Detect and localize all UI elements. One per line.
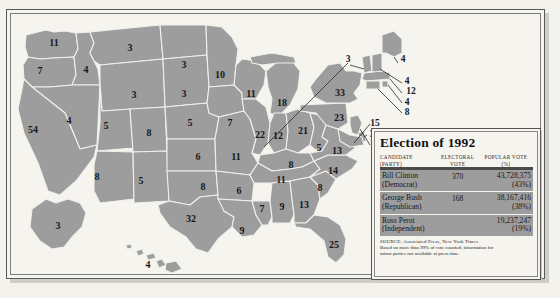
- cell-candidate: George Bush(Republican): [380, 192, 436, 213]
- column-header-popular-line1: POPULAR VOTE: [484, 154, 527, 160]
- electoral-vote-label-maine: 4: [401, 54, 406, 64]
- candidate-party: (Democrat): [382, 181, 436, 190]
- electoral-vote-label-rhode-island: 4: [405, 97, 410, 107]
- column-header-popular-line2: (%): [501, 161, 510, 167]
- electoral-vote-label-kansas: 6: [196, 152, 201, 162]
- column-header-electoral-line1: ELECTORAL: [441, 154, 474, 160]
- state-new-hampshire: [372, 53, 382, 73]
- electoral-vote-label-new-hampshire: 4: [405, 76, 410, 86]
- candidate-party: (Independent): [382, 225, 436, 234]
- column-header-electoral-vote: ELECTORAL VOTE: [436, 154, 478, 167]
- candidate-name: Bill Clinton: [382, 171, 418, 180]
- leader-line-rhode-island: [388, 85, 402, 103]
- source-line-3: minor parties not available at press tim…: [380, 251, 533, 257]
- state-wyoming: [100, 59, 165, 111]
- cell-electoral-vote: [436, 215, 478, 236]
- source-note: SOURCE: Associated Press, New York Times…: [380, 239, 533, 258]
- cell-candidate: Ross Perot(Independent): [380, 215, 436, 236]
- electoral-vote-label-arkansas: 6: [237, 186, 242, 196]
- table-row: Ross Perot(Independent)19,237,247(19%): [380, 215, 533, 236]
- electoral-vote-label-louisiana: 9: [240, 226, 245, 236]
- popular-vote-percent: (38%): [479, 203, 531, 212]
- column-header-candidate-line2: (PARTY): [380, 161, 402, 167]
- state-montana: [90, 25, 163, 65]
- leader-line-vermont: [350, 65, 364, 69]
- electoral-vote-label-michigan: 18: [277, 98, 287, 108]
- electoral-vote-label-colorado: 8: [147, 128, 152, 138]
- state-maine: [382, 31, 402, 57]
- electoral-vote-label-tennessee: 11: [276, 175, 285, 185]
- electoral-vote-label-idaho: 4: [84, 65, 89, 75]
- results-table: CANDIDATE (PARTY) ELECTORAL VOTE POPULAR…: [380, 154, 533, 236]
- electoral-vote-label-wyoming: 3: [132, 90, 137, 100]
- electoral-vote-label-maryland: 15: [370, 118, 380, 128]
- state-hawaii: [126, 244, 182, 273]
- cell-electoral-vote: 370: [436, 170, 478, 191]
- cell-popular-vote: 19,237,247(19%): [479, 215, 533, 236]
- table-header-row: CANDIDATE (PARTY) ELECTORAL VOTE POPULAR…: [380, 154, 533, 167]
- electoral-vote-label-west-virginia: 5: [317, 143, 322, 153]
- electoral-vote-label-ohio: 21: [298, 126, 308, 136]
- state-michigan-up: [250, 53, 296, 65]
- state-arkansas: [216, 171, 254, 201]
- electoral-vote-label-alabama: 9: [280, 202, 285, 212]
- electoral-vote-label-vermont: 3: [346, 54, 351, 64]
- electoral-vote-label-indiana: 12: [273, 131, 283, 141]
- popular-vote-count: 43,728,375: [497, 171, 531, 180]
- state-michigan: [266, 61, 300, 117]
- electoral-vote-label-missouri: 11: [231, 152, 240, 162]
- leader-line-massachusetts: [390, 79, 402, 93]
- column-header-popular-vote: POPULAR VOTE (%): [479, 154, 533, 167]
- popular-vote-percent: (43%): [479, 181, 531, 190]
- leader-line-connecticut: [378, 89, 402, 113]
- column-header-candidate: CANDIDATE (PARTY): [380, 154, 436, 167]
- state-connecticut: [366, 81, 380, 89]
- electoral-vote-label-pennsylvania: 23: [334, 113, 344, 123]
- electoral-vote-label-california: 54: [28, 125, 38, 135]
- electoral-vote-label-connecticut: 8: [405, 107, 410, 117]
- electoral-vote-label-north-dakota: 3: [182, 60, 187, 70]
- column-header-candidate-line1: CANDIDATE: [380, 154, 413, 160]
- state-north-dakota: [160, 25, 207, 59]
- legend-title: Election of 1992: [380, 135, 533, 151]
- electoral-vote-label-arizona: 8: [95, 172, 100, 182]
- electoral-vote-label-nevada: 4: [67, 116, 72, 126]
- column-header-electoral-line2: VOTE: [450, 161, 465, 167]
- electoral-vote-label-wisconsin: 11: [246, 89, 255, 99]
- state-arizona: [94, 151, 134, 203]
- electoral-vote-label-utah: 5: [104, 121, 109, 131]
- popular-vote-percent: (19%): [479, 225, 531, 234]
- table-row: Bill Clinton(Democrat)37043,728,375(43%): [380, 170, 533, 191]
- electoral-vote-label-new-york: 33: [335, 88, 345, 98]
- election-map-figure: 1174334554885335683210711691122718128119…: [0, 0, 560, 298]
- electoral-vote-label-massachusetts: 12: [406, 86, 416, 96]
- electoral-vote-label-georgia: 13: [299, 200, 309, 210]
- state-rhode-island: [382, 81, 388, 87]
- electoral-vote-label-new-mexico: 5: [139, 176, 144, 186]
- electoral-vote-label-mississippi: 7: [260, 204, 265, 214]
- electoral-vote-label-hawaii: 4: [146, 260, 151, 270]
- electoral-vote-label-south-dakota: 3: [182, 89, 187, 99]
- table-row: George Bush(Republican)16838,167,416(38%…: [380, 192, 533, 213]
- state-vermont: [362, 55, 372, 73]
- electoral-vote-label-oregon: 7: [38, 66, 43, 76]
- electoral-vote-label-washington: 11: [49, 38, 58, 48]
- results-table-body: Bill Clinton(Democrat)37043,728,375(43%)…: [380, 170, 533, 236]
- state-kansas: [167, 139, 216, 171]
- electoral-vote-label-oklahoma: 8: [201, 182, 206, 192]
- legend-panel: Election of 1992 CANDIDATE (PARTY) ELECT…: [371, 128, 541, 280]
- candidate-party: (Republican): [382, 203, 436, 212]
- cell-popular-vote: 38,167,416(38%): [479, 192, 533, 213]
- electoral-vote-label-nebraska: 5: [188, 118, 193, 128]
- electoral-vote-label-virginia: 13: [332, 146, 342, 156]
- cell-candidate: Bill Clinton(Democrat): [380, 170, 436, 191]
- electoral-vote-label-minnesota: 10: [215, 70, 225, 80]
- cell-electoral-vote: 168: [436, 192, 478, 213]
- electoral-vote-label-north-carolina: 14: [328, 166, 338, 176]
- state-oregon: [23, 57, 76, 87]
- leader-line-maine: [394, 57, 398, 63]
- electoral-vote-label-south-carolina: 8: [318, 183, 323, 193]
- electoral-vote-label-texas: 32: [186, 214, 196, 224]
- electoral-vote-label-montana: 3: [128, 43, 133, 53]
- electoral-vote-label-alaska: 3: [56, 221, 61, 231]
